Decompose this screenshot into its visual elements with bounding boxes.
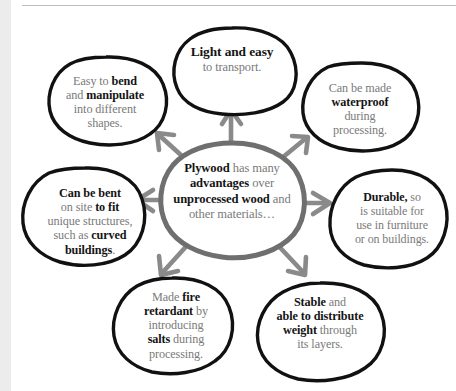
node-can-be-bent-text: Can be benton site to fitunique structur… — [28, 186, 152, 257]
node-easy-to-bend-text: Easy to bendand manipulateinto different… — [46, 74, 164, 131]
node-fire-retardant-text: Made fireretardant byintroducingsalts du… — [120, 290, 232, 361]
node-waterproof-text: Can be madewaterproofduringprocessing. — [306, 81, 414, 138]
node-stable-text: Stable andable to distributeweight throu… — [258, 295, 382, 352]
diagram-canvas: Plywood has many advantages over unproce… — [0, 0, 456, 391]
node-durable-text: Durable, sois suitable foruse in furnitu… — [336, 191, 448, 247]
node-light-and-easy-text: Light and easyto transport. — [176, 44, 288, 74]
center-bubble-text: Plywood has many advantages over unproce… — [168, 161, 296, 222]
